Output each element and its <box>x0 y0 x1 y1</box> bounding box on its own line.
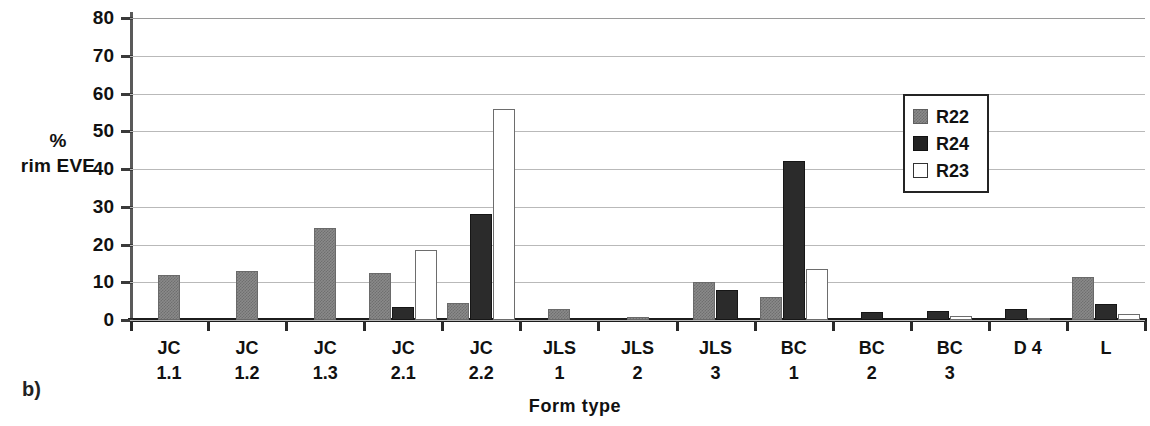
x-category-label-line: 3 <box>677 361 755 386</box>
x-category-label-jc-1.3: JC1.3 <box>286 336 364 386</box>
legend-label-r24: R24 <box>936 135 969 153</box>
bar-r22-jc-1.3 <box>314 228 336 320</box>
bar-r22-jls-3 <box>693 282 715 320</box>
x-category-label-line: BC <box>833 336 911 361</box>
x-category-label-line: JC <box>442 336 520 361</box>
x-axis-title: Form type <box>0 396 1150 417</box>
gridline-80 <box>130 18 1145 19</box>
bar-r24-bc-3 <box>927 311 949 320</box>
bar-r22-l <box>1072 277 1094 320</box>
x-tick-6 <box>676 321 679 331</box>
x-category-label-jc-1.2: JC1.2 <box>208 336 286 386</box>
bar-r22-bc-1 <box>760 297 782 320</box>
bar-r22-jls-1 <box>548 309 570 320</box>
gridline-30 <box>130 207 1145 208</box>
x-category-label-line: JC <box>208 336 286 361</box>
x-tick-8 <box>832 321 835 331</box>
legend-item-r22[interactable]: R22 <box>913 103 979 130</box>
legend-label-r23: R23 <box>936 162 969 180</box>
x-tick-9 <box>910 321 913 331</box>
legend-label-r22: R22 <box>936 108 969 126</box>
bar-r22-jc-1.2 <box>236 271 258 320</box>
x-category-label-line: D 4 <box>989 336 1067 361</box>
bar-r24-jc-2.1 <box>392 307 414 320</box>
gridline-20 <box>130 245 1145 246</box>
x-category-label-line: JC <box>286 336 364 361</box>
y-tick-label-10: 10 <box>60 272 114 291</box>
x-tick-11 <box>1066 321 1069 331</box>
x-category-label-line: 1.3 <box>286 361 364 386</box>
bar-r22-jc-1.1 <box>158 275 180 320</box>
figure-panel-b: % rim EVE 80706050403020100 JC1.1JC1.2JC… <box>0 0 1150 426</box>
x-tick-3 <box>441 321 444 331</box>
bar-r22-jc-2.1 <box>369 273 391 320</box>
x-category-label-line: L <box>1067 336 1145 361</box>
x-category-label-l: L <box>1067 336 1145 361</box>
gridline-40 <box>130 169 1145 170</box>
x-category-label-line: 2 <box>833 361 911 386</box>
legend-swatch-icon-r22 <box>913 109 928 124</box>
y-tick-label-50: 50 <box>60 121 114 140</box>
x-tick-2 <box>363 321 366 331</box>
x-category-label-line: BC <box>755 336 833 361</box>
y-tick-label-30: 30 <box>60 197 114 216</box>
bar-r24-d-4 <box>1005 309 1027 320</box>
bar-r24-jc-2.2 <box>470 214 492 320</box>
gridline-0 <box>130 320 1145 321</box>
gridline-10 <box>130 282 1145 283</box>
gridline-60 <box>130 94 1145 95</box>
panel-label: b) <box>22 378 41 401</box>
x-category-label-line: JC <box>364 336 442 361</box>
x-category-label-jls-3: JLS3 <box>677 336 755 386</box>
legend-swatch-icon-r23 <box>913 163 928 178</box>
bar-r22-jls-2 <box>627 317 649 320</box>
x-category-label-line: JLS <box>520 336 598 361</box>
gridline-50 <box>130 131 1145 132</box>
bar-r24-bc-2 <box>861 312 883 320</box>
bar-r23-d-4 <box>1028 318 1050 320</box>
x-category-label-line: JLS <box>598 336 676 361</box>
x-category-label-line: 2.1 <box>364 361 442 386</box>
bar-r22-jc-2.2 <box>447 303 469 320</box>
x-category-label-bc-1: BC1 <box>755 336 833 386</box>
x-category-label-line: 3 <box>911 361 989 386</box>
y-tick-label-0: 0 <box>60 310 114 329</box>
plot-area <box>130 18 1145 320</box>
x-tick-5 <box>597 321 600 331</box>
y-tick-label-80: 80 <box>60 8 114 27</box>
x-category-label-jc-2.2: JC2.2 <box>442 336 520 386</box>
x-tick-0 <box>207 321 210 331</box>
x-category-label-line: 1 <box>755 361 833 386</box>
x-category-label-line: 2.2 <box>442 361 520 386</box>
x-category-label-bc-2: BC2 <box>833 336 911 386</box>
x-category-label-jc-2.1: JC2.1 <box>364 336 442 386</box>
bar-r24-jls-3 <box>716 290 738 320</box>
x-category-label-line: 1.2 <box>208 361 286 386</box>
x-tick-10 <box>988 321 991 331</box>
legend-item-r23[interactable]: R23 <box>913 157 979 184</box>
x-category-label-jls-1: JLS1 <box>520 336 598 386</box>
x-category-label-line: BC <box>911 336 989 361</box>
x-tick-4 <box>519 321 522 331</box>
x-category-label-line: JC <box>130 336 208 361</box>
x-category-label-jc-1.1: JC1.1 <box>130 336 208 386</box>
legend-item-r24[interactable]: R24 <box>913 130 979 157</box>
bar-r23-bc-1 <box>806 269 828 320</box>
x-category-label-d-4: D 4 <box>989 336 1067 361</box>
x-category-label-line: 1 <box>520 361 598 386</box>
y-tick-label-70: 70 <box>60 46 114 65</box>
x-category-label-line: 1.1 <box>130 361 208 386</box>
x-tick-origin <box>130 321 133 331</box>
x-tick-12 <box>1144 321 1147 331</box>
legend-swatch-icon-r24 <box>913 136 928 151</box>
x-tick-1 <box>285 321 288 331</box>
y-tick-label-60: 60 <box>60 84 114 103</box>
x-category-label-line: 2 <box>598 361 676 386</box>
chart-legend: R22 R24 R23 <box>903 94 989 193</box>
x-tick-7 <box>754 321 757 331</box>
bar-r23-l <box>1118 314 1140 320</box>
bar-r23-jc-2.2 <box>493 109 515 320</box>
y-tick-label-20: 20 <box>60 235 114 254</box>
bar-r24-l <box>1095 304 1117 320</box>
gridline-70 <box>130 56 1145 57</box>
